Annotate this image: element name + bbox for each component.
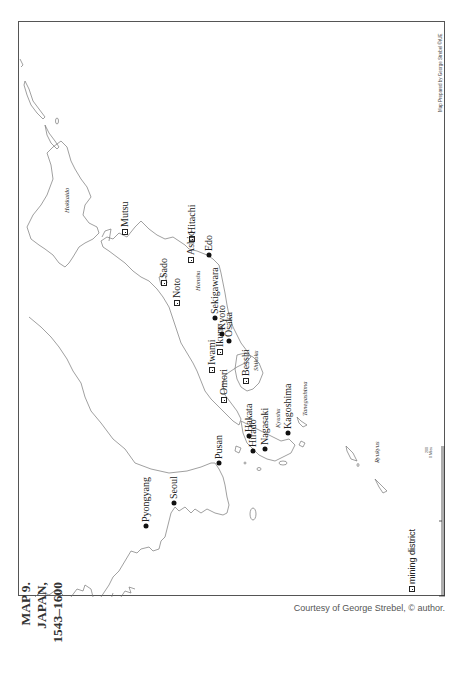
map-credit-vertical: Map Prepared by George Strebel ©rUE	[439, 33, 444, 112]
region-label-tanegashima: Tanegashima	[302, 382, 309, 416]
mining-district-label-ashio: Ashio	[186, 231, 196, 255]
mining-district-icon	[188, 257, 194, 263]
mining-district-icon	[161, 280, 167, 286]
region-label-ryukyus: Ryukyus	[374, 441, 381, 463]
title-line-1: MAP 9.	[18, 582, 34, 672]
mining-district-label-sado: Sado	[159, 258, 169, 278]
title-line-2: JAPAN,	[34, 582, 50, 672]
legend-label: mining district	[408, 529, 417, 584]
city-dot-icon	[286, 431, 291, 436]
city-dot-icon	[144, 524, 149, 529]
mining-district-icon	[217, 349, 223, 355]
mining-district-label-besshi: Besshi	[241, 349, 251, 376]
mining-district-icon	[174, 300, 180, 306]
mining-district-icon	[243, 378, 249, 384]
map-caption: Courtesy of George Strebel, © author.	[294, 603, 445, 613]
city-label-kagoshima: Kagoshima	[283, 383, 293, 429]
mining-district-icon	[221, 397, 227, 403]
city-label-osaka: Osaka	[224, 312, 234, 337]
city-label-seoul: Seoul	[169, 476, 179, 499]
map-title: MAP 9. JAPAN, 1543–1600	[18, 582, 66, 672]
city-dot-icon	[227, 339, 232, 344]
city-dot-icon	[251, 449, 256, 454]
city-dot-icon	[217, 461, 222, 466]
mining-district-label-omori: Omori	[219, 369, 229, 395]
region-label-hokkaido: Hokkaido	[64, 188, 71, 213]
city-dot-icon	[207, 253, 212, 258]
mining-district-label-mutsu: Mutsu	[120, 201, 130, 227]
city-label-pusan: Pusan	[214, 435, 224, 459]
mining-district-label-hitachi: Hitachi	[187, 205, 197, 234]
mining-district-label-noto: Noto	[172, 278, 182, 298]
region-label-kyushu: Kyushu	[275, 409, 282, 429]
scale-label-bottom: 0 Miles	[430, 447, 434, 458]
city-label-edo: Edo	[204, 235, 214, 251]
mining-district-icon	[209, 367, 215, 373]
city-label-nagasaki: Nagasaki	[260, 408, 270, 445]
city-label-pyongyang: Pyongyang	[141, 477, 151, 522]
scale-bar	[439, 446, 445, 596]
mining-district-icon	[122, 229, 128, 235]
map-frame: HokkaidoHonshuShikokuKyushuTanegashimaRy…	[18, 21, 445, 596]
title-line-3: 1543–1600	[50, 582, 66, 672]
city-label-hirado: Hirado	[248, 419, 258, 447]
city-dot-icon	[172, 501, 177, 506]
mining-district-icon	[409, 586, 415, 592]
city-dot-icon	[263, 447, 268, 452]
region-label-shikoku: Shikoku	[253, 350, 260, 371]
region-label-honshu: Honshu	[195, 271, 202, 291]
coastline-map	[19, 22, 446, 597]
